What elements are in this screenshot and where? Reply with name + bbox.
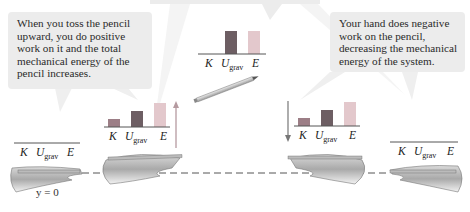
bar-k bbox=[108, 119, 120, 127]
callout-positive-work: When you toss the pencil upward, you do … bbox=[8, 12, 152, 89]
bar-ugrav bbox=[321, 110, 333, 126]
bar-k bbox=[298, 118, 310, 126]
left-callout-tail-2 bbox=[112, 88, 138, 100]
bar-e bbox=[344, 102, 356, 126]
down-arrow-icon bbox=[285, 101, 291, 142]
hand-icon-end bbox=[390, 166, 462, 193]
bar-e bbox=[248, 31, 260, 54]
bar-e bbox=[154, 103, 166, 127]
right-callout-tail bbox=[300, 72, 345, 100]
bar-ugrav bbox=[131, 111, 143, 127]
bar-ugrav bbox=[225, 31, 237, 54]
up-arrow-icon bbox=[173, 101, 179, 148]
pencil-in-flight bbox=[193, 74, 259, 102]
ground-level-label: y = 0 bbox=[36, 186, 59, 198]
callout-negative-work: Your hand does negative work on the penc… bbox=[330, 12, 465, 72]
hand-icon-tossing bbox=[103, 154, 182, 184]
hand-icon-catching bbox=[288, 154, 365, 184]
energy-chart-top bbox=[198, 31, 266, 54]
right-callout-tail-2 bbox=[402, 72, 418, 100]
left-callout-tail bbox=[55, 88, 72, 112]
